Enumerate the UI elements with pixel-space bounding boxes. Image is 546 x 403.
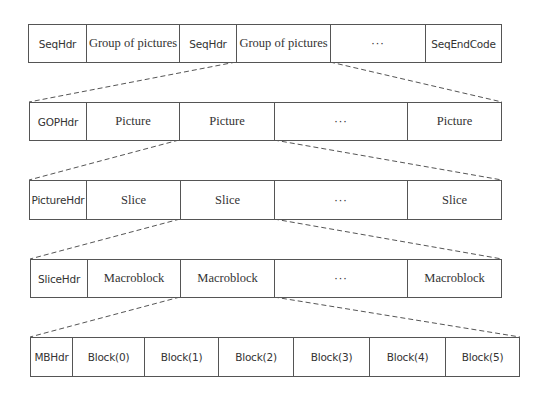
cell-block-2: Block(2) — [218, 337, 294, 377]
cell-picture: Picture — [86, 102, 180, 141]
cell-gophdr: GOPHdr — [29, 102, 87, 141]
cell-ellipsis: ··· — [274, 102, 408, 141]
cell-block-1: Block(1) — [144, 337, 219, 377]
cell-block-5: Block(5) — [445, 337, 520, 377]
expansion-line-gop-left — [29, 62, 236, 102]
expansion-line-macroblock-left — [30, 297, 180, 337]
cell-picture: Picture — [407, 102, 502, 141]
cell-slice: Slice — [86, 180, 181, 220]
cell-slicehdr: SliceHdr — [30, 259, 88, 298]
cell-block-0: Block(0) — [72, 337, 145, 377]
cell-macroblock-expanded: Macroblock — [180, 259, 275, 298]
cell-slice: Slice — [407, 180, 502, 220]
cell-macroblock: Macroblock — [407, 259, 502, 298]
bitstream-hierarchy-diagram: SeqHdr Group of pictures SeqHdr Group of… — [0, 0, 546, 403]
expansion-line-slice-right — [274, 219, 502, 259]
expansion-line-gop-right — [330, 62, 502, 102]
cell-group-of-pictures: Group of pictures — [86, 24, 180, 63]
expansion-line-picture-right — [274, 140, 502, 180]
cell-mbhdr: MBHdr — [30, 337, 73, 377]
cell-seqhdr: SeqHdr — [179, 24, 237, 63]
cell-ellipsis: ··· — [330, 24, 426, 63]
expansion-line-slice-left — [30, 219, 180, 259]
cell-macroblock: Macroblock — [87, 259, 181, 298]
cell-ellipsis: ··· — [274, 180, 408, 220]
cell-seqhdr: SeqHdr — [28, 24, 87, 63]
cell-group-of-pictures-expanded: Group of pictures — [236, 24, 331, 63]
cell-seqendcode: SeqEndCode — [425, 24, 502, 63]
cell-slice-expanded: Slice — [180, 180, 275, 220]
cell-picture-expanded: Picture — [179, 102, 275, 141]
cell-block-4: Block(4) — [369, 337, 446, 377]
expansion-line-macroblock-right — [274, 297, 520, 337]
expansion-line-picture-left — [29, 140, 179, 180]
cell-block-3: Block(3) — [293, 337, 370, 377]
cell-ellipsis: ··· — [274, 259, 408, 298]
cell-picturehdr: PictureHdr — [29, 180, 87, 220]
